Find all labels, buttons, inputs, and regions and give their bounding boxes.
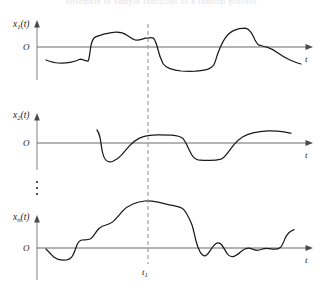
plot-x2-signal-label: x2(t) <box>12 110 29 121</box>
plot-x1-signal-label: x1(t) <box>12 19 29 30</box>
plot-xn-time-axis-label: t <box>305 255 308 265</box>
plot-x2-signal-label-arg: (t) <box>21 110 30 121</box>
plot-x2-time-axis-label: t <box>305 150 308 160</box>
t1-marker-label-subscript: 1 <box>145 271 148 278</box>
plot-xn <box>34 201 313 280</box>
plot-x1-time-axis-arrow <box>306 44 314 50</box>
plot-x2-time-axis-arrow <box>306 140 314 146</box>
plot-x1-time-axis-label: t <box>305 54 308 64</box>
plot-x1-vertical-axis-arrow <box>34 20 40 28</box>
random-process-ensemble-figure: ensemble of sample functions of a random… <box>0 0 323 290</box>
plot-xn-origin-label: O <box>23 243 30 253</box>
t1-marker-label: t1 <box>142 267 148 278</box>
plot-x2-vertical-axis-arrow <box>34 113 40 121</box>
plot-x2-origin-label: O <box>23 138 30 148</box>
plot-xn-vertical-axis-arrow <box>34 215 40 223</box>
plot-xn-signal-label-arg: (t) <box>21 212 30 223</box>
plot-x1-signal-curve <box>46 28 301 71</box>
vertical-ellipsis-icon <box>36 181 38 195</box>
plot-xn-signal-curve <box>46 201 294 260</box>
plot-x1-origin-label: O <box>23 42 30 52</box>
plot-xn-time-axis-arrow <box>306 245 314 251</box>
figure-canvas: x1(t) O t x2(t) O t <box>0 0 323 290</box>
plot-x2 <box>34 113 313 170</box>
plot-xn-signal-label: xn(t) <box>12 212 29 223</box>
plot-x2-signal-curve <box>97 130 291 162</box>
plot-x1-signal-label-arg: (t) <box>21 19 30 30</box>
plot-x1 <box>34 20 313 80</box>
